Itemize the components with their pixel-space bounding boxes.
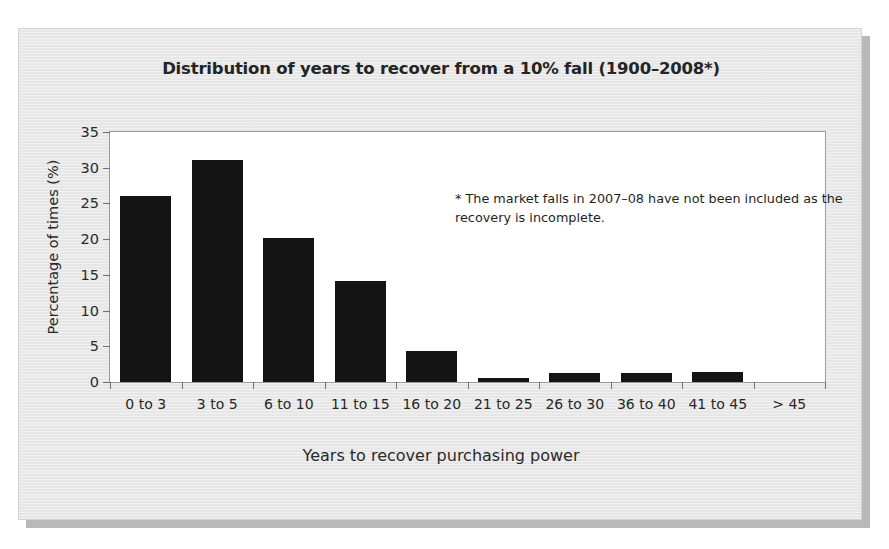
bar (192, 160, 243, 382)
x-axis-tick-label: 36 to 40 (617, 396, 676, 412)
x-axis-tick (325, 382, 326, 389)
y-axis-tick (103, 275, 110, 276)
x-axis-tick (682, 382, 683, 389)
y-axis-tick (103, 203, 110, 204)
bar (692, 372, 743, 382)
x-axis-tick-label: 3 to 5 (197, 396, 238, 412)
x-axis-tick-label: 41 to 45 (688, 396, 747, 412)
y-axis-tick-label: 5 (90, 338, 99, 354)
x-axis-tick (754, 382, 755, 389)
x-axis-tick-label: 11 to 15 (331, 396, 390, 412)
y-axis-tick-label: 20 (81, 231, 99, 247)
bar (549, 373, 600, 382)
bar (263, 238, 314, 382)
y-axis-tick (103, 311, 110, 312)
bar (120, 196, 171, 382)
y-axis-title: Percentage of times (%) (45, 127, 61, 367)
bar (406, 351, 457, 382)
y-axis-tick-label: 30 (81, 159, 99, 175)
page-canvas: Distribution of years to recover from a … (0, 0, 889, 549)
x-axis-tick-label: 6 to 10 (264, 396, 314, 412)
plot-area: 051015202530350 to 33 to 56 to 1011 to 1… (109, 131, 826, 383)
x-axis-tick-label: 26 to 30 (545, 396, 604, 412)
bar (335, 281, 386, 382)
x-axis-tick-label: 0 to 3 (125, 396, 166, 412)
x-axis-tick-label: > 45 (772, 396, 806, 412)
x-axis-tick (825, 382, 826, 389)
x-axis-tick (396, 382, 397, 389)
y-axis-tick-label: 35 (81, 124, 99, 140)
y-axis-tick (103, 132, 110, 133)
y-axis-tick (103, 239, 110, 240)
y-axis-tick-label: 10 (81, 302, 99, 318)
y-axis-tick-label: 25 (81, 195, 99, 211)
x-axis-tick-label: 21 to 25 (474, 396, 533, 412)
x-axis-tick (539, 382, 540, 389)
x-axis-tick (182, 382, 183, 389)
y-axis-tick-label: 0 (90, 374, 99, 390)
y-axis-tick (103, 168, 110, 169)
footnote-annotation: * The market falls in 2007–08 have not b… (455, 190, 855, 227)
figure-card: Distribution of years to recover from a … (18, 28, 862, 520)
x-axis-tick (468, 382, 469, 389)
x-axis-tick (253, 382, 254, 389)
x-axis-tick (611, 382, 612, 389)
chart-title: Distribution of years to recover from a … (19, 59, 863, 78)
bar (478, 378, 529, 382)
y-axis-tick (103, 382, 110, 383)
y-axis-tick (103, 346, 110, 347)
x-axis-tick-label: 16 to 20 (402, 396, 461, 412)
y-axis-tick-label: 15 (81, 267, 99, 283)
bar (621, 373, 672, 382)
x-axis-title: Years to recover purchasing power (19, 446, 863, 465)
plot-inner: 051015202530350 to 33 to 56 to 1011 to 1… (110, 132, 825, 382)
x-axis-tick (110, 382, 111, 389)
